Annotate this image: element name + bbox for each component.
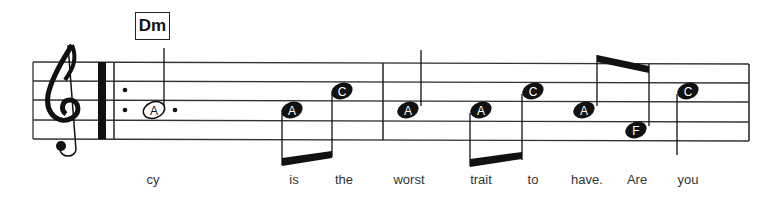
svg-text:A: A [580, 104, 588, 118]
svg-text:A: A [150, 104, 158, 118]
note-A-eighth: A [279, 99, 305, 165]
note-F-eighth: F [623, 64, 649, 141]
svg-text:C: C [338, 85, 347, 99]
lyric: you [678, 172, 699, 187]
svg-text:C: C [529, 85, 538, 99]
note-C-eighth: C [329, 80, 355, 157]
lyric: is [289, 172, 298, 187]
svg-text:A: A [477, 104, 485, 118]
beam [282, 151, 332, 166]
lyric: cy [147, 172, 160, 187]
lyric: the [335, 172, 353, 187]
note-C-quarter: C [675, 80, 701, 155]
lyric: to [528, 172, 539, 187]
repeat-dot [123, 108, 128, 113]
note-A-eighth: A [468, 99, 494, 166]
note-C-eighth: C [520, 80, 546, 160]
note-A-quarter: A [395, 50, 421, 121]
beam [470, 152, 522, 167]
svg-text:C: C [684, 85, 693, 99]
lyric: Are [627, 172, 647, 187]
svg-text:A: A [404, 104, 412, 118]
note-A-dotted-half: A [141, 48, 177, 121]
lyric: worst [393, 172, 424, 187]
repeat-dot [123, 88, 128, 93]
svg-text:A: A [288, 104, 296, 118]
lyric: have. [571, 172, 603, 187]
thick-barline [98, 62, 106, 139]
svg-text:F: F [632, 124, 639, 138]
lyric: trait [470, 172, 492, 187]
note-A-eighth: A [571, 55, 597, 121]
music-staff: A A C A A C A F [0, 0, 783, 203]
